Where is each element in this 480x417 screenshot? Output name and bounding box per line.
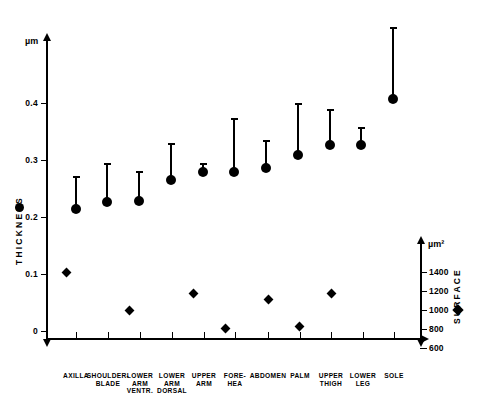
x-axis-tick xyxy=(363,332,364,339)
thickness-error-bar-cap xyxy=(104,163,111,165)
y-axis-right-tick xyxy=(420,329,427,330)
y-axis-right-tick-label: 800 xyxy=(429,324,469,334)
y-axis-left-tick xyxy=(41,331,48,332)
x-axis-tick-label: UPPER ARM xyxy=(192,372,216,387)
thickness-error-bar xyxy=(392,27,394,99)
x-axis-tick-label: ABDOMEN xyxy=(250,372,287,380)
x-axis-tick xyxy=(235,332,236,339)
surface-data-point xyxy=(124,305,134,315)
y-axis-right-tick-label: 600 xyxy=(429,343,469,353)
y-axis-left-tick xyxy=(41,160,48,161)
thickness-data-point xyxy=(71,204,81,214)
y-axis-right-unit: µm² xyxy=(428,239,444,249)
y-axis-right-tick xyxy=(420,348,427,349)
thickness-error-bar-cap xyxy=(295,103,302,105)
y-axis-left-arrow-up-icon xyxy=(43,33,51,41)
thickness-data-point xyxy=(261,163,271,173)
x-axis-tick xyxy=(300,332,301,339)
y-axis-left-tick-label: 0.3 xyxy=(0,155,38,165)
y-axis-right-tick-label: 1400 xyxy=(429,267,469,277)
x-axis-tick xyxy=(108,332,109,339)
y-axis-right-tick-label: 1200 xyxy=(429,286,469,296)
y-axis-right-tick xyxy=(420,291,427,292)
thickness-data-point xyxy=(325,140,335,150)
x-axis-tick-label: SHOULDER- BLADE xyxy=(87,372,129,387)
thickness-error-bar-cap xyxy=(73,176,80,178)
x-axis-tick xyxy=(76,332,77,339)
x-axis-tick xyxy=(204,332,205,339)
x-axis-tick-label: LOWER LEG xyxy=(350,372,376,387)
surface-data-point xyxy=(61,267,71,277)
x-axis-tick-label: AXILLA xyxy=(63,372,89,380)
y-axis-left-arrow-down-icon xyxy=(43,339,51,347)
y-axis-left-tick-label: 0 xyxy=(0,326,38,336)
x-axis-tick-label: FORE- HEA xyxy=(224,372,246,387)
x-axis-arrow-right-icon xyxy=(421,335,429,343)
y-axis-left-tick xyxy=(41,103,48,104)
y-axis-left-tick xyxy=(41,217,48,218)
surface-data-point xyxy=(294,321,304,331)
x-axis-tick-label: PALM xyxy=(290,372,310,380)
thickness-error-bar-cap xyxy=(136,171,143,173)
thickness-data-point xyxy=(356,140,366,150)
thickness-error-bar-cap xyxy=(200,163,207,165)
thickness-data-point xyxy=(102,197,112,207)
y-axis-right-title: SURFACE xyxy=(452,268,462,324)
y-axis-left-tick-label: 0.4 xyxy=(0,98,38,108)
y-axis-left-tick xyxy=(41,274,48,275)
y-axis-right-arrow-up-icon xyxy=(417,236,425,244)
y-axis-left-title: THICKNESS xyxy=(14,196,24,265)
thickness-error-bar-cap xyxy=(168,143,175,145)
x-axis-tick-label: UPPER THIGH xyxy=(319,372,343,387)
thickness-data-point xyxy=(198,167,208,177)
thickness-error-bar xyxy=(297,103,299,155)
surface-data-point xyxy=(326,288,336,298)
y-axis-left-line xyxy=(46,40,48,340)
y-axis-right-tick xyxy=(420,310,427,311)
x-axis-tick-label: LOWER ARM VENTR. xyxy=(127,372,153,395)
x-axis-tick xyxy=(172,332,173,339)
thickness-data-point xyxy=(293,150,303,160)
thickness-data-point xyxy=(229,167,239,177)
thickness-error-bar-cap xyxy=(263,140,270,142)
x-axis-line xyxy=(46,338,422,340)
x-axis-tick xyxy=(140,332,141,339)
chart-canvas: µm 0.40.30.20.10 THICKNESS µm² 140012001… xyxy=(0,0,480,417)
y-axis-left-tick-label: 0.1 xyxy=(0,269,38,279)
x-axis-tick-label: LOWER ARM DORSAL xyxy=(157,372,187,395)
surface-data-point xyxy=(188,288,198,298)
thickness-error-bar-cap xyxy=(231,118,238,120)
x-axis-tick xyxy=(268,332,269,339)
thickness-data-point xyxy=(134,196,144,206)
surface-data-point xyxy=(263,294,273,304)
thickness-error-bar-cap xyxy=(390,27,397,29)
y-axis-left-unit: µm xyxy=(25,36,38,46)
x-axis-tick-label: SOLE xyxy=(384,372,403,380)
x-axis-tick xyxy=(394,332,395,339)
y-axis-right-tick xyxy=(420,272,427,273)
thickness-error-bar-cap xyxy=(358,127,365,129)
x-axis-tick xyxy=(331,332,332,339)
thickness-error-bar-cap xyxy=(327,109,334,111)
thickness-data-point xyxy=(388,94,398,104)
thickness-error-bar xyxy=(233,118,235,172)
surface-data-point xyxy=(220,323,230,333)
thickness-data-point xyxy=(166,175,176,185)
